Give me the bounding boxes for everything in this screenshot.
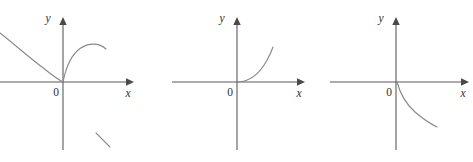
panel-1-curve-left-decay xyxy=(0,33,63,82)
panel-2-origin-label: 0 xyxy=(227,86,233,98)
panel-2-x-axis-arrowhead xyxy=(297,78,305,86)
panel-2-y-axis-label: y xyxy=(218,12,225,25)
panel-3: y x 0 xyxy=(330,12,469,150)
panel-3-x-axis-arrowhead xyxy=(461,78,469,86)
panel-1-y-axis-label: y xyxy=(44,12,51,25)
panel-2: y x 0 xyxy=(172,12,305,150)
panel-3-y-axis-label: y xyxy=(377,12,384,25)
panel-1-x-axis-arrowhead xyxy=(126,78,134,86)
coordinate-plots-figure: y x 0 y x 0 xyxy=(0,0,473,162)
panel-1-origin-label: 0 xyxy=(53,86,59,98)
panel-2-curve-exponential xyxy=(238,47,273,82)
panel-1-curve-right-arc xyxy=(63,44,106,82)
panel-1-y-axis-arrowhead xyxy=(59,17,66,25)
panel-3-x-axis-label: x xyxy=(459,87,466,99)
panel-2-x-axis-label: x xyxy=(295,87,302,99)
panel-3-curve-descending xyxy=(397,82,437,127)
panel-2-y-axis-arrowhead xyxy=(233,17,240,25)
panel-3-y-axis-arrowhead xyxy=(392,17,399,25)
panel-1-x-axis-label: x xyxy=(124,87,131,99)
panel-1: y x 0 xyxy=(0,12,134,150)
panel-3-origin-label: 0 xyxy=(386,86,392,98)
panel-1-stray-diagonal-mark xyxy=(96,133,110,147)
figure-canvas: y x 0 y x 0 xyxy=(0,0,473,162)
